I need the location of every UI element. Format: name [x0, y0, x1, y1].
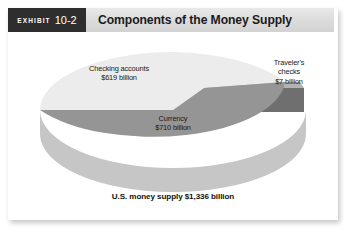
exhibit-number: 10-2 [55, 14, 77, 26]
pie-label-currency-name: Currency [118, 114, 228, 123]
pie-label-currency-value: $710 billion [118, 123, 228, 132]
pie-chart: Checking accounts $619 billion Traveler'… [8, 32, 338, 220]
pie-label-travelers-checks-value: $7 billion [258, 77, 320, 86]
figure-header: Exhibit 10-2 Components of the Money Sup… [8, 8, 334, 32]
pie-label-travelers-checks-name2: checks [258, 67, 320, 76]
pie-label-checking-accounts: Checking accounts $619 billion [64, 64, 174, 83]
figure-title: Components of the Money Supply [86, 8, 334, 32]
pie-label-travelers-checks-name1: Traveler's [258, 58, 320, 67]
exhibit-label: Exhibit [17, 17, 50, 24]
pie-label-checking-accounts-name: Checking accounts [64, 64, 174, 73]
exhibit-figure-card: Exhibit 10-2 Components of the Money Sup… [8, 8, 338, 220]
pie-label-currency: Currency $710 billion [118, 114, 228, 133]
pie-label-travelers-checks: Traveler's checks $7 billion [258, 58, 320, 86]
pie-total-label: U.S. money supply $1,336 billion [43, 192, 303, 201]
exhibit-tag: Exhibit 10-2 [8, 8, 86, 32]
pie-label-checking-accounts-value: $619 billion [64, 73, 174, 82]
